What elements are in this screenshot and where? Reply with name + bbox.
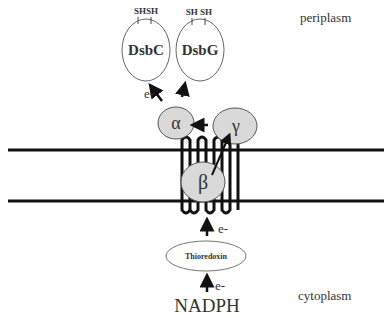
dsbg-thiols: SH SH xyxy=(186,7,212,17)
electron-label-nadph: e- xyxy=(215,278,225,293)
dsbc-thiols: SHSH xyxy=(134,6,158,16)
beta-subunit: β xyxy=(181,162,225,202)
alpha-subunit: α xyxy=(158,107,194,139)
periplasm-label: periplasm xyxy=(300,10,351,25)
dsbg-label: DsbG xyxy=(182,42,219,58)
gamma-subunit: γ xyxy=(213,108,257,144)
nadph-label: NADPH xyxy=(174,295,240,316)
cytoplasm-label: cytoplasm xyxy=(298,288,351,303)
dsbc-protein: SHSH DsbC xyxy=(122,6,170,81)
alpha-label: α xyxy=(171,113,181,133)
arrow-alpha-to-dsbc xyxy=(153,89,162,101)
thioredoxin-label: Thioredoxin xyxy=(185,252,228,261)
electron-label-dsbc: e- xyxy=(144,86,154,101)
arrow-alpha-to-dsbg xyxy=(182,88,184,97)
gamma-label: γ xyxy=(231,116,240,136)
beta-label: β xyxy=(198,171,208,194)
dsbg-protein: SH SH DsbG xyxy=(176,7,224,81)
dsbc-label: DsbC xyxy=(128,42,164,58)
electron-label-thioredoxin: e- xyxy=(218,221,228,236)
dsbd-electron-transfer-diagram: β α γ SHSH DsbC SH SH DsbG e- Thioredoxi… xyxy=(0,0,390,318)
thioredoxin: Thioredoxin xyxy=(166,241,246,271)
